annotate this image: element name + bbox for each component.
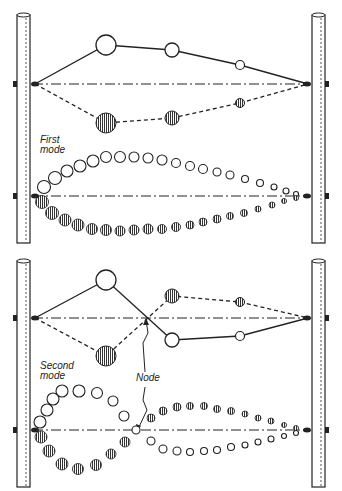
right-anchor <box>303 82 311 87</box>
left-anchor <box>31 82 39 87</box>
first-mode-label: First mode <box>40 135 65 155</box>
mass-small-displaced <box>236 99 245 108</box>
bead-chain-upper <box>38 152 299 197</box>
mass-large <box>96 35 116 55</box>
first-mode-panel <box>13 13 329 243</box>
second-mode-label: Second mode <box>40 361 74 381</box>
right-post-2 <box>312 259 329 487</box>
bead-chain-second-lower <box>35 403 299 475</box>
node-label: Node <box>136 373 160 383</box>
first-mode-label-line2: mode <box>40 145 65 155</box>
mass-medium-displaced <box>165 111 179 125</box>
mass-small <box>236 61 245 70</box>
left-post-2 <box>13 259 30 487</box>
node-pointer-upper <box>143 320 148 372</box>
bead-chain-lower <box>36 196 299 237</box>
second-mode-label-line2: mode <box>40 371 74 381</box>
mass-large-displaced <box>96 113 116 133</box>
vibration-modes-diagram <box>0 0 342 491</box>
mass-medium <box>165 43 179 57</box>
right-post <box>312 13 329 243</box>
left-post <box>13 13 30 243</box>
node-pointer-lower <box>138 387 147 429</box>
